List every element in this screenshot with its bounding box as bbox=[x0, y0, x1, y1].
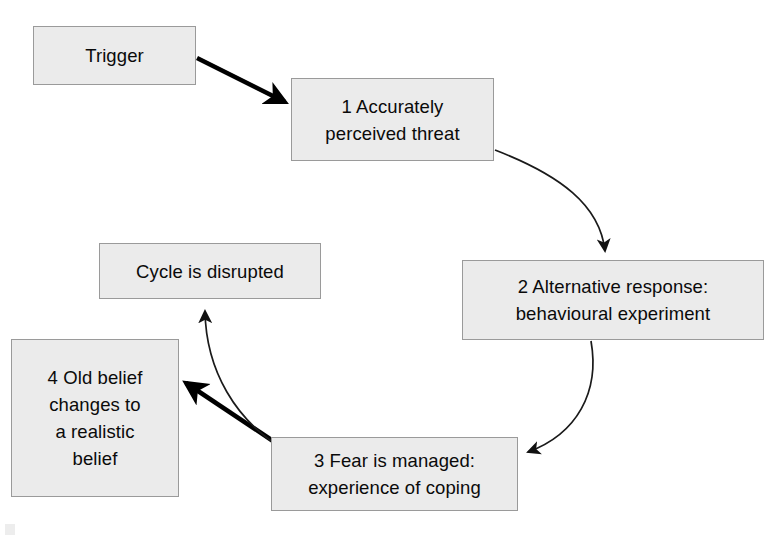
edge-step3-to-step4 bbox=[186, 383, 276, 443]
node-step1-accurately-perceived-threat[interactable]: 1 Accurately perceived threat bbox=[291, 78, 494, 161]
edge-step3-to-cycle-disrupted bbox=[205, 311, 280, 447]
scan-artifact bbox=[5, 524, 15, 535]
node-step2-alternative-response[interactable]: 2 Alternative response: behavioural expe… bbox=[462, 260, 764, 340]
node-cycle-is-disrupted[interactable]: Cycle is disrupted bbox=[99, 243, 321, 299]
node-trigger[interactable]: Trigger bbox=[33, 26, 196, 85]
node-step2-label: 2 Alternative response: behavioural expe… bbox=[463, 273, 763, 327]
node-cycle-label: Cycle is disrupted bbox=[100, 258, 320, 285]
edge-trigger-to-step1 bbox=[197, 58, 285, 102]
node-step3-label: 3 Fear is managed: experience of coping bbox=[272, 447, 517, 501]
node-step3-fear-is-managed[interactable]: 3 Fear is managed: experience of coping bbox=[271, 437, 518, 511]
node-step4-old-belief-changes[interactable]: 4 Old belief changes to a realistic beli… bbox=[11, 339, 179, 497]
edge-step1-to-step2 bbox=[495, 150, 605, 251]
edge-step2-to-step3 bbox=[528, 341, 593, 452]
node-trigger-label: Trigger bbox=[34, 42, 195, 69]
node-step1-label: 1 Accurately perceived threat bbox=[292, 93, 493, 147]
node-step4-label: 4 Old belief changes to a realistic beli… bbox=[12, 364, 178, 472]
diagram-canvas: Trigger 1 Accurately perceived threat 2 … bbox=[0, 0, 770, 540]
